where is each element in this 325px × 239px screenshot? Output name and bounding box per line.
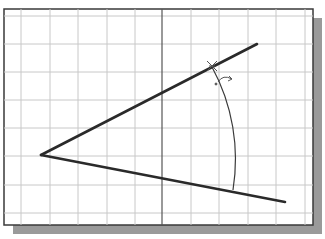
frame-shadow-bottom <box>13 225 322 234</box>
drawing-canvas[interactable] <box>0 0 325 239</box>
frame-shadow-right <box>313 18 322 234</box>
